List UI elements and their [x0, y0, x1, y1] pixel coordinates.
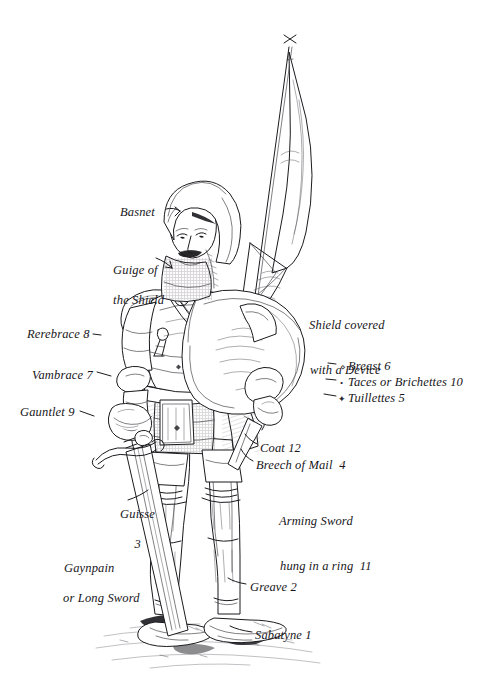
label-guige-line2: the Shield: [113, 293, 164, 307]
rerebrace-marker-icon: ·: [86, 330, 89, 340]
label-greave: Greave 2: [250, 580, 297, 595]
label-arming-sword-line1: Arming Sword: [279, 514, 353, 528]
label-tuillettes: Tuillettes 5: [348, 391, 405, 406]
label-sabatyne: Sabatyne 1: [255, 628, 312, 643]
breast-marker-icon: ⋄: [340, 362, 346, 372]
label-basnet: Basnet: [120, 205, 155, 220]
label-breast: Breast 6: [348, 359, 391, 374]
label-guige-line1: Guige of: [113, 263, 158, 277]
label-gauntlet: Gauntlet 9: [20, 405, 75, 420]
cuisses: [147, 450, 242, 486]
aventail: [162, 256, 213, 302]
label-taces-or-brichettes: Taces or Brichettes 10: [348, 375, 463, 390]
label-guige-of-the-shield: Guige of the Shield: [100, 248, 164, 323]
label-shield-line1: Shield covered: [309, 318, 385, 332]
taces-marker-icon: •: [340, 378, 343, 388]
label-gaynpain-line1: Gaynpain: [50, 561, 140, 576]
armour-diagram-page: .s{fill:none;stroke:#1b1a1e;stroke-width…: [0, 0, 487, 689]
label-gaynpain-or-long-sword: Gaynpain or Long Sword: [50, 531, 140, 621]
label-arming-sword-line2: hung in a ring 11: [266, 559, 372, 574]
label-breech-of-mail: Breech of Mail 4: [256, 458, 346, 473]
label-coat: Coat 12: [260, 441, 301, 456]
label-rerebrace: Rerebrace 8: [27, 327, 90, 342]
label-guisse-name: Guisse: [120, 507, 155, 521]
label-gaynpain-line2: or Long Sword: [63, 591, 140, 605]
tuillettes-marker-icon: ✦: [338, 394, 346, 404]
label-vambrace: Vambrace 7: [32, 368, 93, 383]
